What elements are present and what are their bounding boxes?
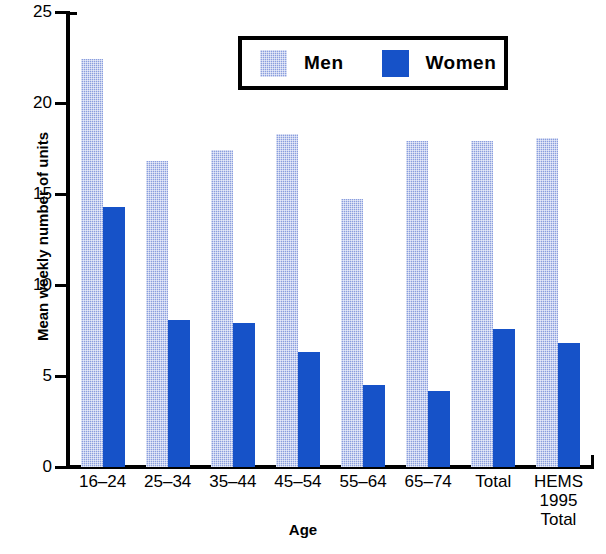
bar-men-4	[341, 199, 363, 467]
bar-women-2	[233, 323, 255, 467]
x-axis-title: Age	[0, 521, 606, 538]
bar-women-4	[363, 385, 385, 467]
bar-men-3	[276, 134, 298, 467]
bar-women-3	[298, 352, 320, 467]
bar-men-1	[146, 161, 168, 467]
bar-men-2	[211, 150, 233, 467]
x-axis-tick-label: 25–34	[135, 472, 200, 491]
bar-chart: Mean weekly number of units 0510152025 1…	[0, 0, 606, 554]
y-axis-tick	[55, 375, 70, 378]
bar-women-7	[558, 343, 580, 467]
x-axis-tick-label: 35–44	[200, 472, 265, 491]
y-axis-title: Mean weekly number of units	[34, 107, 51, 367]
legend-swatch-men-icon	[260, 50, 287, 77]
y-axis-tick	[55, 11, 70, 14]
y-axis-tick-label: 5	[6, 367, 52, 384]
bar-men-0	[81, 59, 103, 467]
y-axis-tick	[55, 284, 70, 287]
bar-women-5	[428, 391, 450, 467]
bar-women-6	[493, 329, 515, 467]
legend-label-women: Women	[426, 52, 497, 74]
x-axis-tick-label: 45–54	[265, 472, 330, 491]
x-axis-tick-label: Total	[461, 472, 526, 491]
y-axis-tick	[55, 102, 70, 105]
y-axis-tick	[55, 193, 70, 196]
legend-entry-women: Women	[382, 50, 497, 77]
y-axis-tick-label: 25	[6, 3, 52, 20]
legend-label-men: Men	[304, 52, 344, 74]
x-axis-right-cap	[591, 455, 594, 469]
x-axis-tick-label: 55–64	[331, 472, 396, 491]
bar-men-7	[536, 138, 558, 467]
bar-men-6	[471, 141, 493, 467]
y-axis-tick-label: 15	[6, 185, 52, 202]
bar-women-1	[168, 320, 190, 467]
y-axis-tick-label: 20	[6, 94, 52, 111]
y-axis-tick	[55, 466, 70, 469]
bar-women-0	[103, 207, 125, 467]
legend-swatch-women-icon	[382, 50, 409, 77]
chart-legend: Men Women	[238, 36, 508, 90]
y-axis-tick-label: 0	[6, 458, 52, 475]
x-axis-tick-label: 16–24	[70, 472, 135, 491]
bar-men-5	[406, 141, 428, 467]
x-axis-tick-label: 65–74	[396, 472, 461, 491]
y-axis-tick-label: 10	[6, 276, 52, 293]
legend-entry-men: Men	[260, 50, 344, 77]
